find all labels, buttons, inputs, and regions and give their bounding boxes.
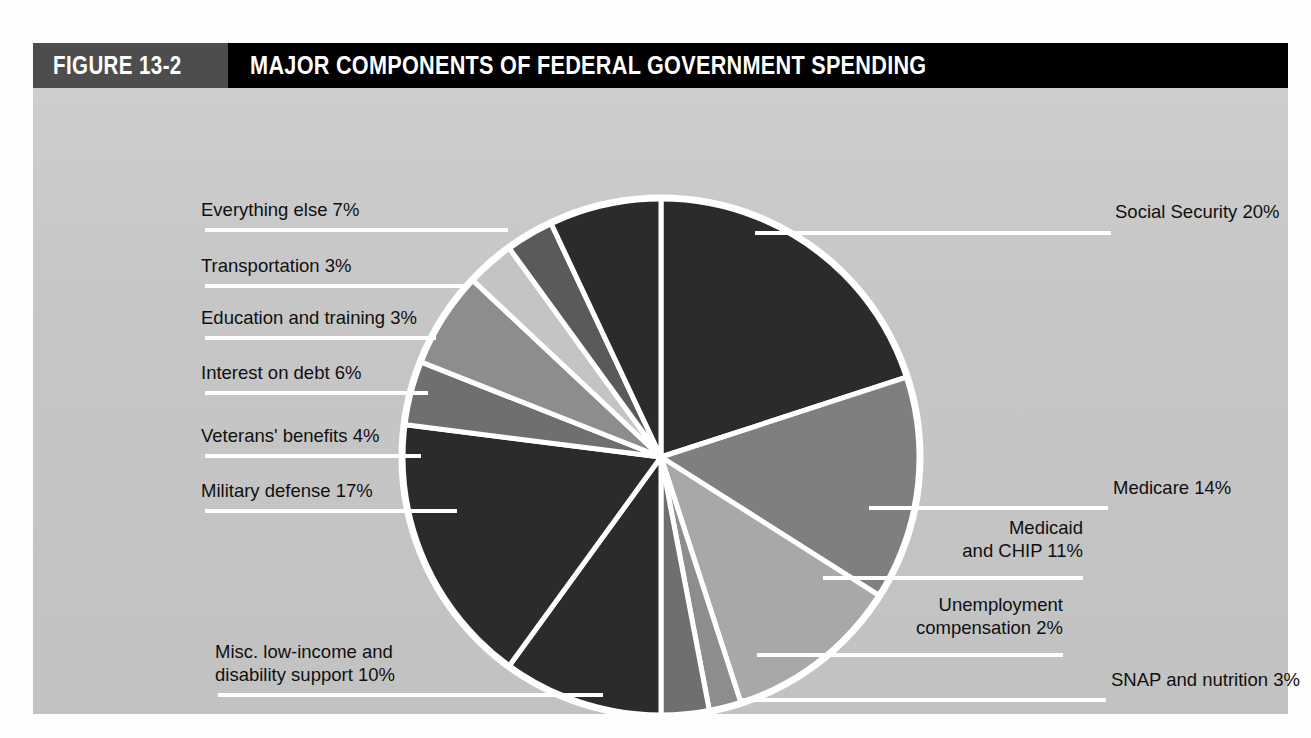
label-misc-line2: disability support 10% [215,663,395,686]
pie-chart-area: Everything else 7% Transportation 3% Edu… [33,88,1288,714]
label-military: Military defense 17% [201,479,373,502]
figure-number: FIGURE 13-2 [53,51,182,80]
figure-header-bar: FIGURE 13-2 MAJOR COMPONENTS OF FEDERAL … [33,43,1288,88]
label-medicaid-line2: and CHIP 11% [903,539,1083,562]
label-unemployment-line1: Unemployment [863,593,1063,616]
label-medicaid: Medicaid and CHIP 11% [903,516,1083,562]
label-interest: Interest on debt 6% [201,361,361,384]
label-social-security: Social Security 20% [1115,200,1280,223]
label-everything-else: Everything else 7% [201,198,359,221]
label-transportation: Transportation 3% [201,254,351,277]
label-medicaid-line1: Medicaid [903,516,1083,539]
label-unemployment: Unemployment compensation 2% [863,593,1063,639]
label-medicare: Medicare 14% [1113,476,1231,499]
label-misc: Misc. low-income and disability support … [215,640,395,686]
figure-title: MAJOR COMPONENTS OF FEDERAL GOVERNMENT S… [228,43,926,88]
label-education: Education and training 3% [201,306,417,329]
figure-number-block: FIGURE 13-2 [33,43,228,88]
pie-chart [33,88,1288,714]
label-snap: SNAP and nutrition 3% [1111,668,1300,691]
label-unemployment-line2: compensation 2% [863,616,1063,639]
figure-panel: FIGURE 13-2 MAJOR COMPONENTS OF FEDERAL … [33,43,1288,714]
label-misc-line1: Misc. low-income and [215,640,395,663]
label-veterans: Veterans' benefits 4% [201,424,379,447]
